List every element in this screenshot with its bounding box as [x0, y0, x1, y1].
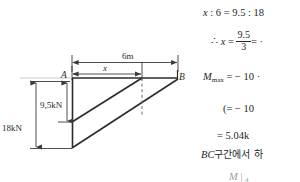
solution-line-x-value: ∴ x = 9.5 3 = ·: [211, 30, 263, 53]
fraction-denominator: 3: [236, 42, 251, 52]
fraction-9-5-over-3: 9.5 3: [236, 30, 251, 53]
diagram-outline: [72, 70, 178, 148]
fraction-numerator: 9.5: [236, 30, 251, 40]
proportion-equals: =: [221, 7, 232, 18]
label-node-a: A: [61, 71, 67, 81]
proportion-colon-2: :: [245, 7, 253, 18]
label-force-18kN: 18kN: [2, 124, 22, 133]
solution-line-mmax: Mmax = − 10 ·: [203, 72, 260, 84]
mmax-symbol: M: [203, 71, 212, 82]
x-equals: =: [228, 36, 234, 47]
solution-line-paren: (= − 10: [223, 104, 254, 115]
solution-line-proportion: x : 6 = 9.5 : 18: [203, 8, 264, 19]
mmax-expression: = − 10 ·: [226, 71, 260, 82]
proportion-force-value: 9.5: [232, 7, 245, 18]
therefore-symbol: ∴: [211, 36, 218, 47]
label-node-b: B: [179, 73, 185, 83]
segment-bc-label: BC: [201, 149, 214, 160]
proportion-colon-1: :: [208, 7, 216, 18]
solution-line-result: = 5.04k: [217, 131, 249, 142]
solution-line-korean-note: BC구간에서 하: [201, 150, 263, 161]
clipped-moment-symbol: M: [229, 171, 238, 182]
shear-force-diagram: 6m x A B 9,5kN 18kN: [0, 0, 195, 182]
diagram-vector-layer: [0, 0, 195, 182]
shear-line-upper: [72, 78, 142, 122]
shear-diagonals: [72, 78, 178, 148]
x-variable: x: [221, 36, 226, 47]
clipped-moment-tail: | ₄: [240, 171, 248, 182]
solution-text-panel: x : 6 = 9.5 : 18 ∴ x = 9.5 3 = · Mmax = …: [195, 0, 300, 182]
proportion-total-value: 18: [254, 7, 265, 18]
mmax-subscript: max: [212, 76, 224, 84]
korean-note-text: 구간에서 하: [214, 149, 262, 160]
label-distance-x: x: [103, 64, 107, 73]
label-force-9-5kN: 9,5kN: [40, 101, 62, 110]
solution-line-clipped: M | ₄: [229, 172, 249, 182]
dimension-force-18kN: [30, 82, 72, 149]
figure-screenshot: 6m x A B 9,5kN 18kN x : 6 = 9.5 : 18 ∴ x…: [0, 0, 300, 182]
x-value-tail: = ·: [251, 36, 263, 47]
label-span-6m: 6m: [122, 52, 134, 61]
